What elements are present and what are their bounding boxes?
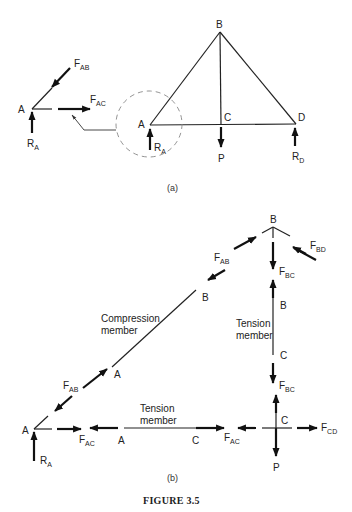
tension-vertical-line1: Tension [236,318,270,329]
joint-a-fbd-b: A FAC RA [22,396,95,468]
member-bc-c-label: C [280,350,287,361]
part-a-caption: (a) [167,183,178,193]
joint-a-fbd: A FAB FAC RA [18,58,116,151]
compression-label-line1: Compression [101,313,160,324]
part-b-exploded-truss: B FBD FAB FBC B A Compression member FAB… [22,214,337,473]
joint-c-fbd: C FCD P [238,395,337,473]
joint-b-fbd-label: FBD [310,240,326,253]
member-acd [150,124,296,125]
part-a-truss: B A C D RA P RD [116,19,305,164]
joint-a-ra-label: RA [40,455,52,468]
member-ac-c-label: C [192,435,199,446]
joint-b-ab-stub [262,227,273,233]
member-ab-a-label: A [114,369,121,380]
joint-b-fbd-arrow [293,247,306,254]
joint-a-ab-stub [34,416,48,429]
tension-horizontal-line1: Tension [140,403,174,414]
joint-b-fab-arrow [234,237,256,249]
node-a-label: A [138,119,145,130]
member-bc-fbc-label: FBC [279,380,295,393]
node-b-label: B [216,19,223,30]
joint-a-fac-label: FAC [79,434,95,447]
truss-figure: B A C D RA P RD A FAB FAC RA (a) B [0,0,352,512]
member-ab [150,32,220,125]
member-ab-fab-label: FAB [63,380,79,393]
ra-label: RA [154,142,166,155]
fbd-fab-label: FAB [74,58,90,71]
joint-c-label: C [281,415,288,426]
member-ab-b-label: B [202,292,209,303]
member-ac-fac-label: FAC [224,432,240,445]
figure-caption: FIGURE 3.5 [143,495,200,506]
node-d-label: D [298,112,305,123]
member-bc [220,32,221,125]
joint-a-fab-arrow [55,396,72,411]
fbd-node-a-label: A [18,104,25,115]
fbd-fac-label: FAC [90,94,106,107]
member-ab-fab-bottom-arrow [83,369,107,388]
member-ab-fbd: B A Compression member FAB [63,270,225,393]
rd-label: RD [292,151,304,164]
tension-vertical-line2: member [236,330,273,341]
fbd-member-ab [32,88,52,109]
joint-b-fbd: B FBD FAB FBC [214,214,326,279]
detail-leader-line [72,115,116,130]
member-bc-b-label: B [280,300,287,311]
joint-b-fab-label: FAB [214,252,230,265]
member-bc-fbd: B C Tension member FBC [236,280,295,393]
member-ac-a-label: A [118,435,125,446]
joint-c-p-label: P [273,462,280,473]
member-ac-fbd: A C Tension member FAC [90,403,240,446]
fbd-ra-label: RA [27,138,39,151]
p-label: P [218,153,225,164]
part-b-caption: (b) [167,473,178,483]
compression-label-line2: member [101,325,138,336]
joint-b-label: B [270,214,277,225]
member-ab-fab-top-arrow [208,270,225,280]
joint-b-bd-stub [273,227,290,236]
member-bd [220,32,296,124]
node-c-label: C [224,112,231,123]
fbd-fab-arrow [52,68,70,87]
joint-c-fcd-label: FCD [321,422,337,435]
tension-horizontal-line2: member [140,415,177,426]
joint-a-label: A [22,425,29,436]
joint-b-fbc-label: FBC [279,266,295,279]
